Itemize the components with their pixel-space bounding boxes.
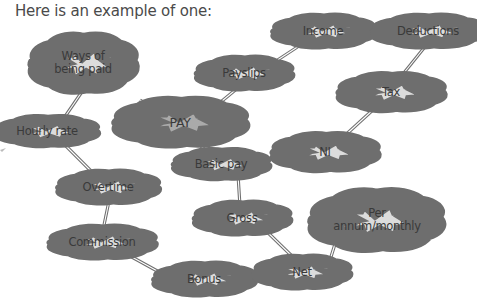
node-ni: NI [287, 145, 363, 159]
node-per-annum-monthly: Per annum/monthly [330, 205, 424, 235]
node-overtime: Overtime [72, 180, 144, 194]
node-ways-of-being-paid: Ways of being paid [50, 48, 116, 78]
node-commission: Commission [63, 235, 141, 249]
node-net: Net [268, 265, 336, 279]
node-deductions: Deductions [388, 24, 468, 38]
node-tax: Tax [353, 85, 429, 99]
node-gross: Gross [208, 211, 276, 225]
stray-mark [0, 148, 6, 152]
node-income: Income [287, 24, 359, 38]
node-payslips: Payslips [210, 66, 278, 80]
node-basic-pay: Basic pay [186, 157, 256, 171]
node-bonus: Bonus [168, 272, 240, 286]
node-hourly-rate: Hourly rate [10, 124, 84, 138]
mind-map-connectors [0, 0, 477, 301]
node-pay: PAY [135, 110, 225, 134]
